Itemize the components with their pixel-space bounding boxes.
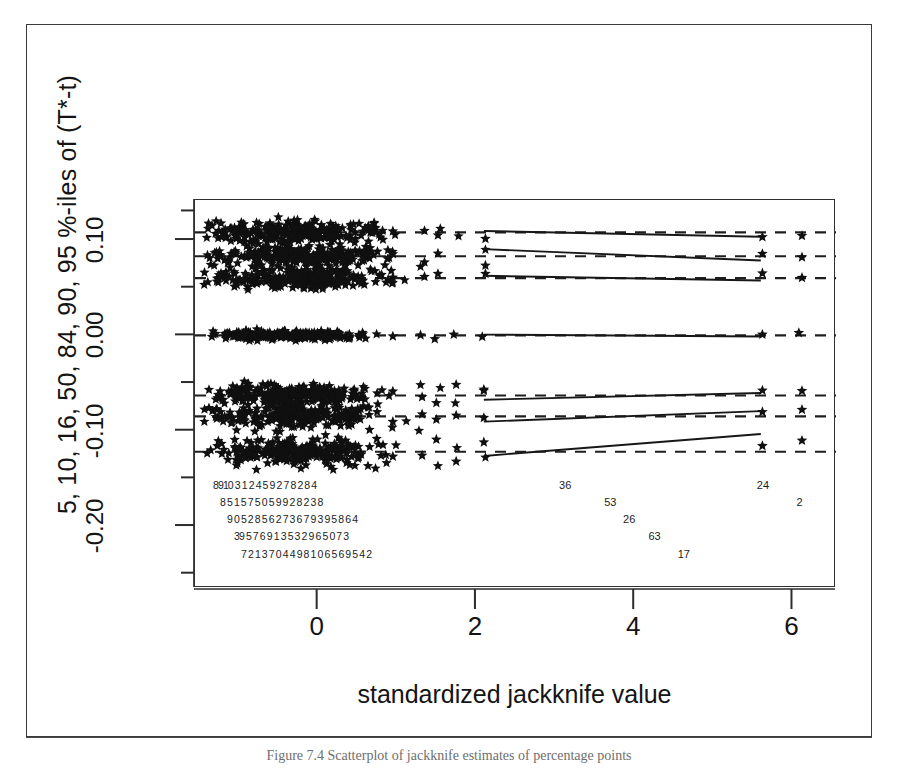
case-id-row: 39 5 7 6 9 1 3 5 3 2 9 6 5 0 7 3 bbox=[234, 530, 348, 542]
case-id-row: 7 2 1 3 7 0 4 4 9 8 1 0 6 5 6 9 5 4 2 bbox=[241, 548, 371, 560]
case-id-row: 8910 3 1 2 4 5 9 2 7 8 2 8 4 bbox=[213, 479, 316, 491]
outlier-case-id: 2 bbox=[796, 496, 802, 508]
x-tick-label: 6 bbox=[761, 611, 821, 642]
outlier-case-id: 26 bbox=[623, 513, 635, 525]
y-tick-label: 0.00 bbox=[81, 289, 109, 381]
figure-frame: 5, 10, 16, 50, 84, 90, 95 %-iles of (T*-… bbox=[26, 24, 872, 737]
outlier-case-id: 63 bbox=[648, 530, 660, 542]
figure-caption: Figure 7.4 Scatterplot of jackknife esti… bbox=[26, 748, 872, 769]
trend-line bbox=[484, 249, 761, 260]
case-id-row: 8 5 1 5 7 5 0 5 9 9 2 8 2 3 8 bbox=[220, 496, 322, 508]
x-tick-label: 2 bbox=[445, 611, 505, 642]
outlier-case-id: 53 bbox=[604, 496, 616, 508]
outlier-case-id: 36 bbox=[559, 479, 571, 491]
y-axis-title: 5, 10, 16, 50, 84, 90, 95 %-iles of (T*-… bbox=[53, 15, 82, 575]
x-axis-title: standardized jackknife value bbox=[194, 680, 835, 709]
outlier-case-id: 24 bbox=[757, 479, 769, 491]
y-axis bbox=[167, 195, 197, 593]
sparse-points bbox=[400, 223, 491, 470]
plot-panel: 8910 3 1 2 4 5 9 2 7 8 2 8 436248 5 1 5 … bbox=[194, 199, 835, 587]
y-tick-label: 0.10 bbox=[81, 194, 109, 286]
caption-divider bbox=[26, 737, 872, 738]
case-id-row: 9 0 5 2 8 5 6 2 7 3 6 7 9 3 9 5 8 6 4 bbox=[227, 513, 357, 525]
y-tick-label: -0.20 bbox=[81, 480, 109, 572]
x-tick-label: 0 bbox=[287, 611, 347, 642]
outlier-case-id: 17 bbox=[678, 548, 690, 560]
point-cluster bbox=[202, 426, 807, 474]
y-tick-label: -0.10 bbox=[81, 385, 109, 477]
x-tick-label: 4 bbox=[603, 611, 663, 642]
